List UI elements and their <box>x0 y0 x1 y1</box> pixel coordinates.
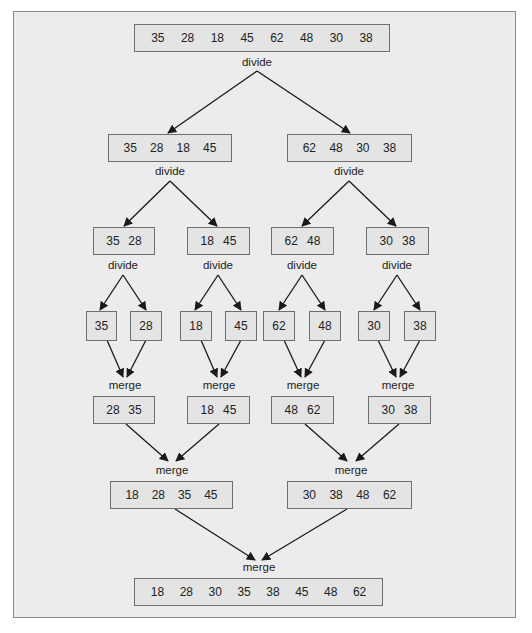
array-box-merged-half: 30 38 48 62 <box>287 481 412 509</box>
divide-label: divide <box>382 259 412 271</box>
array-value: 30 <box>303 488 316 502</box>
array-value: 48 <box>324 585 337 599</box>
array-value: 38 <box>402 234 415 248</box>
array-value: 62 <box>285 234 298 248</box>
array-value: 62 <box>303 141 316 155</box>
array-value: 62 <box>353 585 366 599</box>
array-value: 30 <box>356 141 369 155</box>
array-box-single: 18 <box>180 311 212 341</box>
array-value: 38 <box>359 31 372 45</box>
array-value: 18 <box>201 403 214 417</box>
divide-label: divide <box>242 56 272 68</box>
arrow-divide <box>168 71 257 133</box>
array-box-left-half: 35 28 18 45 <box>108 134 232 162</box>
array-value: 18 <box>211 31 224 45</box>
array-value: 28 <box>106 403 119 417</box>
array-box-single: 28 <box>130 311 162 341</box>
divide-label: divide <box>203 259 233 271</box>
array-box-merged-half: 18 28 35 45 <box>110 481 233 509</box>
divide-label: divide <box>287 259 317 271</box>
array-value: 38 <box>413 319 426 333</box>
array-box-single: 38 <box>404 311 436 341</box>
array-value: 62 <box>270 31 283 45</box>
array-value: 45 <box>223 234 236 248</box>
array-value: 18 <box>177 141 190 155</box>
array-box-merged-pair: 18 45 <box>187 396 250 424</box>
array-box-quarter: 30 38 <box>366 227 429 255</box>
merge-label: merge <box>335 464 368 476</box>
array-value: 45 <box>223 403 236 417</box>
divide-label: divide <box>108 259 138 271</box>
array-value: 45 <box>234 319 247 333</box>
array-value: 35 <box>124 141 137 155</box>
array-box-merged-pair: 28 35 <box>93 396 155 424</box>
merge-label: merge <box>382 379 415 391</box>
array-value: 62 <box>272 319 285 333</box>
array-box-quarter: 35 28 <box>93 227 155 255</box>
array-value: 30 <box>380 234 393 248</box>
array-value: 62 <box>307 403 320 417</box>
merge-label: merge <box>203 379 236 391</box>
array-box-quarter: 18 45 <box>187 227 250 255</box>
array-box-single: 35 <box>86 311 117 341</box>
array-value: 30 <box>330 31 343 45</box>
array-value: 48 <box>356 488 369 502</box>
array-value: 45 <box>203 141 216 155</box>
array-value: 28 <box>150 141 163 155</box>
array-value: 45 <box>295 585 308 599</box>
array-value: 35 <box>95 319 108 333</box>
array-value: 62 <box>383 488 396 502</box>
array-box-sorted: 18 28 30 35 38 45 48 62 <box>134 578 383 606</box>
array-value: 48 <box>329 141 342 155</box>
array-value: 45 <box>204 488 217 502</box>
array-value: 18 <box>201 234 214 248</box>
array-value: 28 <box>181 31 194 45</box>
array-value: 35 <box>237 585 250 599</box>
array-value: 38 <box>329 488 342 502</box>
array-value: 30 <box>367 319 380 333</box>
merge-label: merge <box>156 464 189 476</box>
divide-label: divide <box>155 165 185 177</box>
array-box-single: 62 <box>263 311 295 341</box>
merge-label: merge <box>109 379 142 391</box>
array-value: 38 <box>383 141 396 155</box>
array-value: 35 <box>106 234 119 248</box>
array-value: 18 <box>125 488 138 502</box>
divide-label: divide <box>334 165 364 177</box>
array-value: 48 <box>318 319 331 333</box>
array-box-merged-pair: 30 38 <box>368 396 431 424</box>
array-value: 35 <box>128 403 141 417</box>
array-value: 30 <box>209 585 222 599</box>
array-box-unsorted: 35 28 18 45 62 48 30 38 <box>134 24 390 52</box>
array-value: 30 <box>382 403 395 417</box>
array-value: 38 <box>404 403 417 417</box>
array-box-single: 30 <box>358 311 390 341</box>
array-value: 28 <box>139 319 152 333</box>
array-value: 48 <box>285 403 298 417</box>
array-value: 28 <box>128 234 141 248</box>
array-box-single: 45 <box>225 311 257 341</box>
merge-label: merge <box>287 379 320 391</box>
array-value: 35 <box>178 488 191 502</box>
array-value: 48 <box>307 234 320 248</box>
array-value: 18 <box>189 319 202 333</box>
array-box-right-half: 62 48 30 38 <box>287 134 412 162</box>
merge-label: merge <box>243 561 276 573</box>
array-value: 28 <box>152 488 165 502</box>
array-value: 48 <box>300 31 313 45</box>
array-box-quarter: 62 48 <box>271 227 334 255</box>
array-value: 18 <box>151 585 164 599</box>
arrow-divide <box>257 71 350 133</box>
array-value: 45 <box>240 31 253 45</box>
array-value: 35 <box>151 31 164 45</box>
array-value: 38 <box>266 585 279 599</box>
array-box-merged-pair: 48 62 <box>271 396 334 424</box>
array-box-single: 48 <box>309 311 341 341</box>
array-value: 28 <box>180 585 193 599</box>
